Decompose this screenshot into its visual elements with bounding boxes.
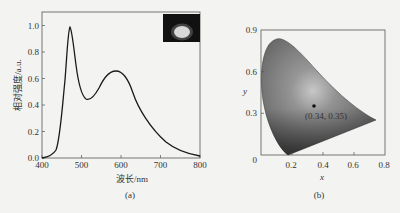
spectrum-chart: 0.0 0.2 0.4 0.6 0.8 1.0 400 500 600 700 … bbox=[12, 12, 207, 200]
x-axis-b bbox=[292, 152, 354, 155]
x-tick: 800 bbox=[193, 160, 207, 170]
x-axis-label-a: 波长/nm bbox=[116, 173, 148, 184]
y-tick: 1.0 bbox=[28, 21, 40, 31]
point-label: (0.34, 0.35) bbox=[305, 111, 347, 121]
y-tick: 0.3 bbox=[246, 108, 258, 118]
x-tick: 0.8 bbox=[378, 160, 390, 170]
x-tick: 700 bbox=[154, 160, 168, 170]
y-tick: 0 bbox=[253, 155, 258, 165]
y-axis-label-b: y bbox=[242, 86, 247, 96]
x-tick: 0.2 bbox=[285, 160, 296, 170]
y-tick: 0.6 bbox=[28, 74, 40, 84]
x-tick: 500 bbox=[75, 160, 89, 170]
x-tick: 400 bbox=[35, 160, 49, 170]
y-axis-a bbox=[42, 26, 45, 159]
y-axis-label-a: 相对强度/a.u. bbox=[12, 59, 23, 111]
spectrum-line bbox=[42, 27, 200, 158]
figure: 0.0 0.2 0.4 0.6 0.8 1.0 400 500 600 700 … bbox=[0, 0, 400, 213]
white-point-marker bbox=[312, 104, 316, 108]
y-tick: 0.6 bbox=[246, 67, 258, 77]
x-tick: 600 bbox=[114, 160, 128, 170]
x-axis-label-b: x bbox=[319, 172, 324, 182]
led-photo-inset bbox=[163, 14, 200, 42]
x-tick: 0.6 bbox=[347, 160, 359, 170]
y-tick: 0.8 bbox=[28, 47, 40, 57]
cie-chart: 0.9 0.6 0.3 0 y 0.2 0.4 0.6 0.8 x (0.34,… bbox=[242, 25, 390, 200]
y-tick: 0.9 bbox=[246, 25, 258, 35]
caption-b: (b) bbox=[314, 190, 325, 200]
x-tick: 0.4 bbox=[317, 160, 329, 170]
caption-a: (a) bbox=[125, 190, 135, 200]
x-axis-a bbox=[42, 155, 200, 158]
y-tick: 0.4 bbox=[28, 100, 40, 110]
y-tick: 0.2 bbox=[28, 127, 39, 137]
